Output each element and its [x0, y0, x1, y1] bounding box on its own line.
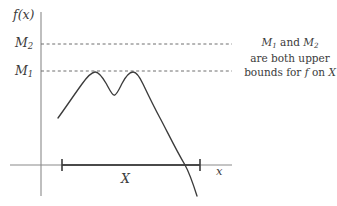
annotation-x: X	[328, 66, 335, 78]
interval-label: X	[121, 173, 130, 186]
m2-subscript: 2	[28, 41, 33, 51]
m2-bound-label: M2	[15, 37, 33, 51]
x-axis-label: x	[216, 166, 223, 178]
m1-subscript: 1	[28, 69, 33, 79]
annotation-bounds-for: bounds for	[244, 66, 305, 78]
annotation-and: and	[277, 36, 303, 48]
annotation-m2-base: M	[303, 36, 314, 48]
annotation-m2-sub: 2	[314, 41, 319, 50]
m1-bound-label: M1	[15, 65, 33, 79]
annotation-line-3: bounds for f on X	[243, 66, 337, 79]
annotation-line-2: are both upper	[243, 52, 337, 65]
m1-base: M	[15, 63, 28, 78]
annotation-line-1: M1 and M2	[243, 36, 337, 52]
annotation-on: on	[309, 66, 329, 78]
annotation-text: M1 and M2 are both upper bounds for f on…	[243, 36, 337, 79]
annotation-m1-base: M	[261, 36, 272, 48]
y-axis-label: f(x)	[13, 9, 34, 22]
figure-container: f(x) M2 M1 x X M1 and M2 are both upper …	[0, 0, 337, 206]
function-plot	[0, 0, 337, 206]
m2-base: M	[15, 35, 28, 50]
